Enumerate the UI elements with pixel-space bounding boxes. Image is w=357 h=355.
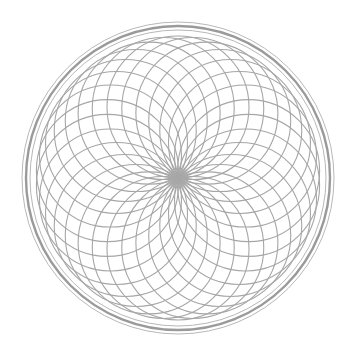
rosette-canvas	[0, 0, 357, 355]
rosette-figure	[0, 0, 357, 355]
center-hub	[168, 168, 188, 188]
